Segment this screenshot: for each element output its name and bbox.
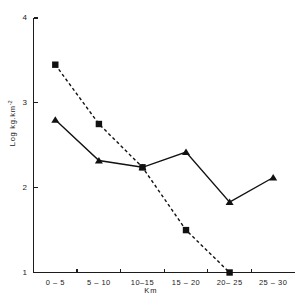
series-markers-group	[51, 62, 277, 276]
chart-figure: 4321 0 – 55 – 1010–1515 – 2020– 2525 – 3…	[0, 0, 302, 304]
data-point-triangle	[269, 174, 277, 181]
plot-area	[0, 0, 302, 304]
axes-group	[34, 18, 296, 273]
data-point-square	[226, 269, 232, 275]
data-point-square	[183, 227, 189, 233]
y-axis-tick-label: 1	[14, 268, 28, 277]
data-point-triangle	[51, 116, 59, 123]
x-axis-title: Km	[0, 286, 302, 295]
y-axis-title: Log kg.km-2	[7, 77, 18, 169]
y-axis-tick-label: 2	[14, 183, 28, 192]
y-axis-title-exponent: -2	[7, 100, 13, 105]
data-point-square	[52, 62, 58, 68]
series-lines-group	[55, 65, 273, 273]
y-axis-tick-label: 4	[14, 13, 28, 22]
data-point-square	[96, 121, 102, 127]
series-line-triangle	[55, 120, 273, 202]
y-axis-title-text: Log kg.km	[8, 105, 17, 146]
data-point-triangle	[182, 148, 190, 155]
